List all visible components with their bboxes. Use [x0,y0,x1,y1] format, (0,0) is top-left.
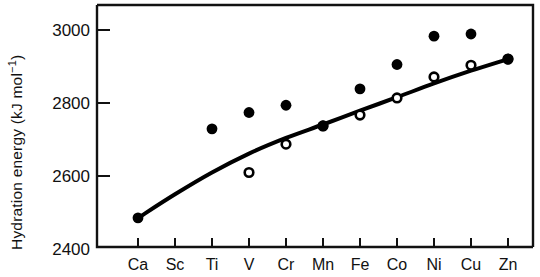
x-tick-label-cu: Cu [461,256,481,273]
data-point-open-fe [356,111,365,120]
x-tick-label-sc: Sc [166,256,185,273]
y-tick-label-2600: 2600 [52,167,90,186]
x-tick-label-v: V [244,256,255,273]
x-tick-label-ti: Ti [206,256,219,273]
data-point-filled-mn [318,121,329,132]
data-point-filled-ti [207,123,218,134]
chart-plot-area: Hydration energy (kJ mol−1) 3000 2800 26… [0,0,540,277]
data-point-filled-ni [429,31,440,42]
chart-figure: Hydration energy (kJ mol−1) 3000 2800 26… [0,0,540,277]
x-tick-marks [138,238,508,247]
data-point-open-v [245,168,254,177]
y-tick-labels: 3000 2800 2600 2400 [52,21,90,259]
x-tick-label-ca: Ca [128,256,149,273]
y-tick-label-2800: 2800 [52,94,90,113]
x-tick-labels: Ca Sc Ti V Cr Mn Fe Co Ni Cu Zn [128,256,518,273]
data-point-open-ni [430,73,439,82]
data-point-filled-cr [281,100,292,111]
y-tick-label-2400: 2400 [52,240,90,259]
y-axis-title-tail: ) [8,55,25,60]
data-point-open-cu [467,61,476,70]
x-tick-label-co: Co [387,256,408,273]
x-tick-label-cr: Cr [278,256,296,273]
y-axis-title-superscript: −1 [6,60,18,73]
x-tick-label-ni: Ni [426,256,441,273]
data-point-open-co [393,94,402,103]
trend-line-path [138,59,508,218]
data-point-filled-v [244,107,255,118]
data-point-filled-cu [466,29,477,40]
y-axis-title: Hydration energy (kJ mol−1) [6,55,25,250]
x-tick-label-mn: Mn [312,256,334,273]
data-point-open-cr [282,140,291,149]
y-tick-label-3000: 3000 [52,21,90,40]
data-point-filled-co [392,59,403,70]
x-tick-label-zn: Zn [499,256,518,273]
svg-text:Hydration energy (kJ mol−1): Hydration energy (kJ mol−1) [6,55,25,250]
series-filled-circles [133,29,514,224]
y-tick-marks [97,30,110,176]
data-point-filled-zn [503,54,514,65]
y-axis-title-main: Hydration energy (kJ mol [8,73,25,250]
data-point-filled-fe [355,83,366,94]
series-trend-line [138,59,508,218]
x-tick-label-fe: Fe [351,256,370,273]
data-point-filled-ca [133,213,144,224]
series-open-circles [245,55,513,177]
